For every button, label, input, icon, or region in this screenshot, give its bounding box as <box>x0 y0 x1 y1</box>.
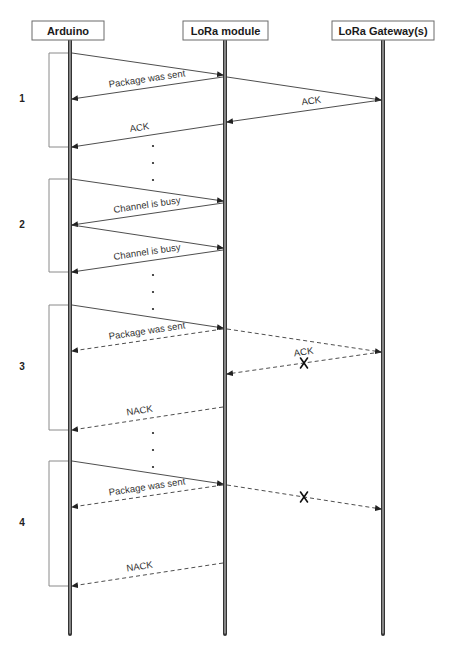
participant-module: LoRa module <box>183 21 268 40</box>
ellipsis-dot <box>152 308 154 310</box>
message-label: Channel is busy <box>113 241 182 262</box>
section-brackets: 1234 <box>19 53 68 586</box>
section-number: 3 <box>19 361 25 372</box>
section-bracket <box>49 305 68 430</box>
message-label: Package was sent <box>108 319 186 341</box>
message-label: ACK <box>301 94 323 108</box>
message-label: NACK <box>126 403 154 418</box>
participant-gateway: LoRa Gateway(s) <box>332 21 434 40</box>
ellipsis-dot <box>152 432 154 434</box>
ellipsis-dot <box>152 162 154 164</box>
section-4: 4 <box>19 461 68 586</box>
continuation-dots-1 <box>152 145 154 181</box>
message-arrow <box>72 53 223 75</box>
message-label: NACK <box>126 559 154 574</box>
continuation-dots-2 <box>152 274 154 310</box>
message-arrow <box>72 179 223 201</box>
message-label: Package was sent <box>108 475 186 497</box>
participant-label: Arduino <box>47 25 89 37</box>
participant-label: LoRa module <box>191 25 261 37</box>
section-2-messages: Channel is busyChannel is busy <box>72 179 223 272</box>
message-label: ACK <box>293 345 315 359</box>
section-number: 4 <box>19 517 25 528</box>
section-bracket <box>49 53 68 147</box>
participant-label: LoRa Gateway(s) <box>338 25 428 37</box>
message-label: Channel is busy <box>113 194 182 215</box>
ellipsis-dot <box>152 466 154 468</box>
section-3: 3 <box>19 305 68 430</box>
ellipsis-dot <box>152 274 154 276</box>
section-number: 1 <box>19 93 25 104</box>
participant-headers: ArduinoLoRa moduleLoRa Gateway(s) <box>32 21 434 40</box>
section-bracket <box>49 179 68 272</box>
continuation-dots <box>152 145 154 468</box>
ellipsis-dot <box>152 291 154 293</box>
section-1: 1 <box>19 53 68 147</box>
ellipsis-dot <box>152 179 154 181</box>
ellipsis-dot <box>152 449 154 451</box>
sequence-diagram: 1234 Package was sentACKACKChannel is bu… <box>0 0 453 652</box>
message-arrow <box>72 225 223 248</box>
message-label: Package was sent <box>108 67 186 89</box>
continuation-dots-3 <box>152 432 154 468</box>
section-bracket <box>49 461 68 586</box>
section-2: 2 <box>19 179 68 272</box>
ellipsis-dot <box>152 145 154 147</box>
message-label: ACK <box>129 120 151 134</box>
section-number: 2 <box>19 219 25 230</box>
participant-arduino: Arduino <box>32 21 104 40</box>
